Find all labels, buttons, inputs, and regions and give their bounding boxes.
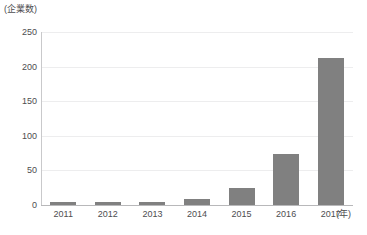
bar-group [264,32,309,205]
plot-area [41,32,353,205]
bar-2017 [318,58,344,205]
bar-group [219,32,264,205]
x-tick-label-2015: 2015 [219,208,264,220]
bar-group [130,32,175,205]
x-tick-label-2014: 2014 [175,208,220,220]
y-tick-label-250: 250 [3,27,37,37]
bar-2015 [229,188,255,205]
y-tick-label-100: 100 [3,131,37,141]
bar-group [175,32,220,205]
bottom-caption [0,230,367,235]
x-tick-label-2012: 2012 [86,208,131,220]
bar-group [41,32,86,205]
x-tick-label-2016: 2016 [264,208,309,220]
x-axis-line [41,205,353,206]
bar-chart: (企業数) 050100150200250 201120122013201420… [0,0,367,235]
x-axis-tick-labels: 2011201220132014201520162017 [41,208,353,224]
bar-group [308,32,353,205]
x-axis-unit-label: (年) [336,208,351,220]
y-tick-label-50: 50 [3,165,37,175]
y-tick-label-150: 150 [3,96,37,106]
y-tick-label-200: 200 [3,62,37,72]
y-axis-tick-labels: 050100150200250 [0,0,37,235]
bar-group [86,32,131,205]
y-tick-label-0: 0 [3,200,37,210]
y-axis-line [41,32,42,206]
x-tick-label-2011: 2011 [41,208,86,220]
x-tick-label-2013: 2013 [130,208,175,220]
bar-2016 [273,154,299,205]
